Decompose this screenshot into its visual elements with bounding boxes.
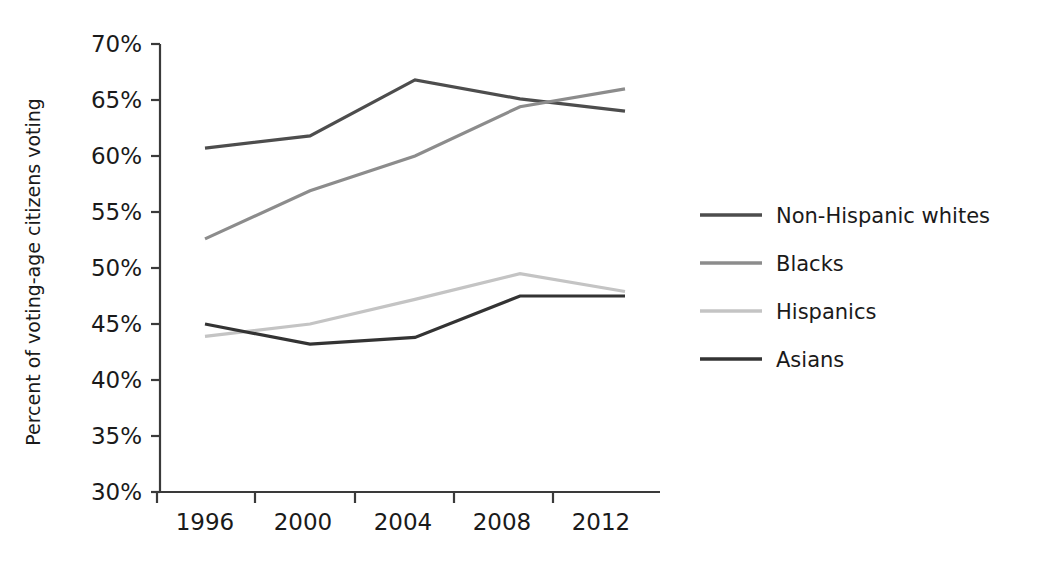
y-tick-label: 55% <box>91 199 142 225</box>
series-line-hispanics <box>205 274 625 337</box>
chart-canvas: Percent of voting-age citizens voting 70… <box>0 0 1042 561</box>
y-tick-label: 45% <box>91 311 142 337</box>
x-tick-label: 2008 <box>473 509 532 535</box>
voter-turnout-line-chart: Percent of voting-age citizens voting 70… <box>0 0 1042 561</box>
legend-label-asians: Asians <box>776 348 844 372</box>
y-tick-label: 40% <box>91 367 142 393</box>
x-tick-label: 2000 <box>274 509 333 535</box>
legend-label-non-hispanic-whites: Non-Hispanic whites <box>776 204 990 228</box>
y-tick-label: 70% <box>91 31 142 57</box>
x-tick-label: 2012 <box>572 509 631 535</box>
legend-label-blacks: Blacks <box>776 252 844 276</box>
x-axis-ticks: 19962000200420082012 <box>157 492 630 535</box>
y-tick-label: 65% <box>91 87 142 113</box>
y-axis-label: Percent of voting-age citizens voting <box>22 98 44 446</box>
y-tick-label: 60% <box>91 143 142 169</box>
data-series-group <box>205 80 625 344</box>
y-axis-ticks: 70%65%60%55%50%45%40%35%30% <box>91 31 160 505</box>
legend-label-hispanics: Hispanics <box>776 300 876 324</box>
y-tick-label: 35% <box>91 423 142 449</box>
x-tick-label: 1996 <box>176 509 235 535</box>
chart-legend: Non-Hispanic whitesBlacksHispanicsAsians <box>700 204 990 372</box>
y-tick-label: 50% <box>91 255 142 281</box>
x-tick-label: 2004 <box>374 509 433 535</box>
series-line-non-hispanic-whites <box>205 80 625 148</box>
series-line-asians <box>205 296 625 344</box>
y-tick-label: 30% <box>91 479 142 505</box>
series-line-blacks <box>205 89 625 239</box>
